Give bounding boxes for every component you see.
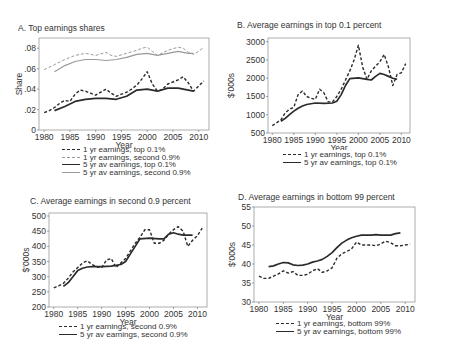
solid-dark-swatch-icon xyxy=(276,331,294,332)
svg-text:2000: 2000 xyxy=(347,304,366,314)
panel-d-legend: 1 yr earnings, bottom 99% 5 yr av earnin… xyxy=(276,320,401,335)
panel-d-plot: 1980198519901995200020052010303540455055… xyxy=(0,0,449,360)
svg-text:2005: 2005 xyxy=(371,304,390,314)
svg-text:2010: 2010 xyxy=(396,304,415,314)
svg-text:55: 55 xyxy=(242,202,252,212)
svg-text:$'000s: $'000s xyxy=(227,242,237,267)
svg-text:35: 35 xyxy=(242,278,252,288)
svg-text:40: 40 xyxy=(242,259,252,269)
svg-text:1980: 1980 xyxy=(249,304,268,314)
dashed-dark-swatch-icon xyxy=(276,323,294,324)
legend-item: 5 yr av earnings, bottom 99% xyxy=(276,328,401,336)
svg-text:30: 30 xyxy=(242,297,252,307)
svg-text:1985: 1985 xyxy=(274,304,293,314)
svg-text:50: 50 xyxy=(242,221,252,231)
svg-text:45: 45 xyxy=(242,240,252,250)
svg-text:1990: 1990 xyxy=(298,304,317,314)
